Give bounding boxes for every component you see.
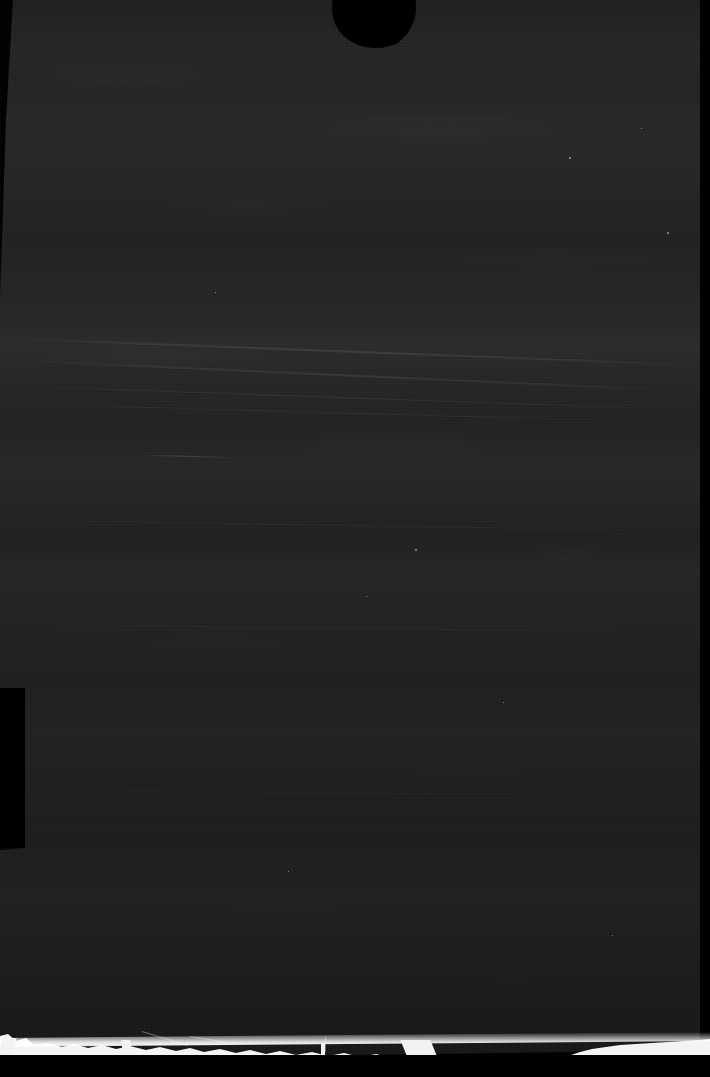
below-tear-black-area xyxy=(0,1055,710,1077)
right-border-strip xyxy=(700,0,710,1077)
left-rectangular-cutout xyxy=(0,688,25,848)
scanned-image-root: Heavily underexposed scan of a torn shee… xyxy=(0,0,710,1077)
emulsion-surface xyxy=(0,0,710,1077)
